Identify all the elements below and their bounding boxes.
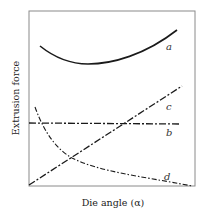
line-b	[29, 123, 181, 124]
label-c: c	[166, 101, 172, 112]
curve-a	[40, 30, 177, 64]
y-axis-label: Extrusion force	[10, 60, 21, 135]
label-d: d	[164, 171, 170, 182]
label-b: b	[166, 127, 172, 138]
plot-frame	[29, 11, 195, 186]
line-c	[29, 86, 182, 185]
extrusion-force-diagram: a c b d Die angle (α) Extrusion force	[0, 0, 206, 216]
x-axis-label: Die angle (α)	[82, 197, 145, 208]
label-a: a	[166, 41, 172, 52]
